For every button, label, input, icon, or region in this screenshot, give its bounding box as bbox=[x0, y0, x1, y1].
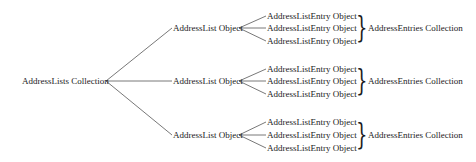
addresslistentry-object-node: AddressListEntry Object bbox=[267, 76, 357, 86]
addresslist-object-node: AddressList Object bbox=[173, 23, 243, 33]
root-node-addresslists-collection: AddressLists Collection bbox=[22, 76, 109, 86]
brace-icon: } bbox=[356, 12, 367, 42]
brace-icon: } bbox=[356, 119, 367, 149]
addresslistentry-object-node: AddressListEntry Object bbox=[267, 64, 357, 74]
addresslist-object-node: AddressList Object bbox=[173, 76, 243, 86]
addresslistentry-object-node: AddressListEntry Object bbox=[267, 130, 357, 140]
brace-icon: } bbox=[356, 65, 367, 95]
object-model-diagram: AddressLists Collection AddressList Obje… bbox=[0, 0, 476, 162]
addresslistentry-object-node: AddressListEntry Object bbox=[267, 117, 357, 127]
addresslistentry-object-node: AddressListEntry Object bbox=[267, 36, 357, 46]
addresslistentry-object-node: AddressListEntry Object bbox=[267, 11, 357, 21]
addressentries-collection-label: AddressEntries Collection bbox=[368, 23, 463, 33]
addresslist-object-node: AddressList Object bbox=[173, 130, 243, 140]
addressentries-collection-label: AddressEntries Collection bbox=[368, 76, 463, 86]
addressentries-collection-label: AddressEntries Collection bbox=[368, 130, 463, 140]
addresslistentry-object-node: AddressListEntry Object bbox=[267, 23, 357, 33]
addresslistentry-object-node: AddressListEntry Object bbox=[267, 143, 357, 153]
addresslistentry-object-node: AddressListEntry Object bbox=[267, 89, 357, 99]
